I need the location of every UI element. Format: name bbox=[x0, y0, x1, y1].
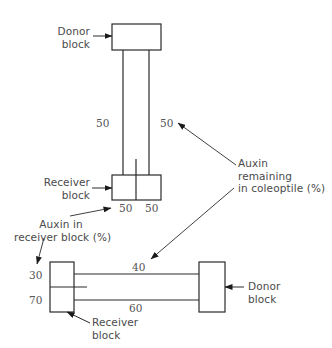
label-line: Auxin in bbox=[14, 218, 108, 231]
vertical-receiver-left-value: 50 bbox=[119, 202, 132, 214]
auxin-transport-diagram: Donor block 50 50 Receiver block 50 50 A… bbox=[0, 0, 332, 348]
horizontal-receiver-arrow bbox=[67, 312, 90, 323]
vertical-donor-label: Donor block bbox=[36, 25, 90, 50]
label-line: remaining bbox=[238, 170, 325, 183]
label-line: Donor bbox=[36, 25, 90, 38]
auxin-receiver-annotation: Auxin in receiver block (%) bbox=[14, 218, 108, 243]
label-line: block bbox=[36, 38, 90, 51]
auxin-remaining-annotation: Auxin remaining in coleoptile (%) bbox=[238, 157, 325, 195]
label-line: block bbox=[92, 329, 138, 342]
vertical-coleoptile-right-value: 50 bbox=[160, 117, 173, 129]
horizontal-receiver-top-value: 30 bbox=[29, 269, 42, 281]
horizontal-coleoptile-top-value: 40 bbox=[132, 261, 145, 273]
coleoptile-annotation-arrow-lower bbox=[151, 188, 234, 259]
horizontal-receiver-label: Receiver block bbox=[92, 316, 138, 341]
label-line: Receiver bbox=[92, 316, 138, 329]
label-line: Receiver bbox=[36, 176, 90, 189]
vertical-receiver-right-value: 50 bbox=[145, 202, 158, 214]
label-line: receiver block (%) bbox=[14, 231, 108, 244]
label-line: Donor bbox=[248, 280, 280, 293]
vertical-setup bbox=[92, 24, 161, 200]
label-line: Auxin bbox=[238, 157, 325, 170]
horizontal-donor-label: Donor block bbox=[248, 280, 280, 305]
label-line: in coleoptile (%) bbox=[238, 182, 325, 195]
label-line: block bbox=[36, 189, 90, 202]
label-line: block bbox=[248, 293, 280, 306]
horizontal-setup bbox=[50, 262, 244, 323]
horizontal-coleoptile-bottom-value: 60 bbox=[129, 302, 142, 314]
horizontal-donor-block bbox=[199, 262, 225, 312]
vertical-receiver-label: Receiver block bbox=[36, 176, 90, 201]
vertical-donor-block bbox=[112, 24, 161, 50]
horizontal-receiver-bottom-value: 70 bbox=[29, 294, 42, 306]
vertical-coleoptile-left-value: 50 bbox=[96, 117, 109, 129]
receiver-annotation-arrow-upper bbox=[70, 208, 111, 216]
coleoptile-annotation-arrow-upper bbox=[178, 123, 236, 165]
